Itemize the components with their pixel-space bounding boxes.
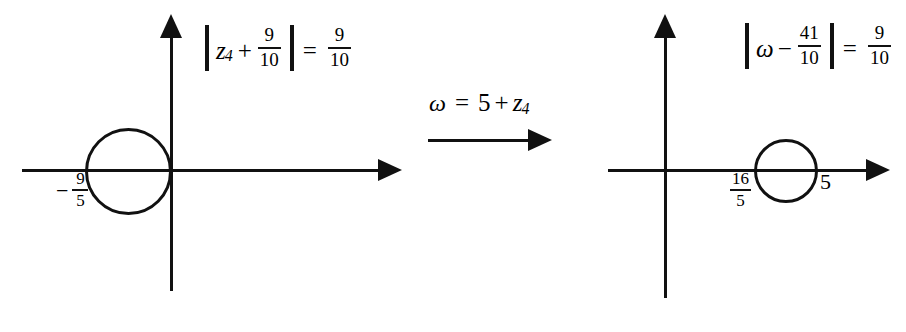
right-radius-denominator: 10 (868, 48, 891, 69)
right-axis-label-sixteen-fifths: 16 5 (728, 172, 753, 213)
left-equation-operator: + (234, 38, 256, 63)
transform-constant: 5 (478, 90, 491, 115)
right-axis-label-five: 5 (820, 171, 831, 193)
left-equation-equals: = (294, 38, 326, 63)
transform-term-subscript: 4 (521, 101, 529, 117)
abs-bar-right-icon (830, 23, 834, 69)
figure-canvas: − 9 5 z4 + 9 10 = 9 10 (0, 0, 906, 332)
abs-bar-left-icon (745, 23, 749, 69)
abs-bar-right-icon (290, 25, 294, 71)
left-circle (85, 128, 172, 215)
transform-arrow-head-icon (528, 129, 552, 151)
right-y-axis (664, 36, 667, 298)
right-y-axis-arrow-icon (654, 14, 676, 38)
right-equation-equals: = (834, 36, 866, 61)
transform-label: ω = 5 + z4 (429, 90, 530, 115)
transform-variable: ω (429, 91, 446, 115)
left-operand-numerator: 9 (263, 25, 277, 46)
left-radius-denominator: 10 (328, 50, 351, 71)
fraction-denominator: 5 (74, 192, 87, 210)
left-radius-numerator: 9 (333, 25, 347, 46)
right-radius-numerator: 9 (873, 23, 887, 44)
minus-sign: − (56, 180, 70, 202)
right-equation-operator: − (774, 36, 796, 61)
fraction-denominator: 5 (734, 192, 747, 210)
left-operand-denominator: 10 (258, 50, 281, 71)
right-x-axis-arrow-icon (866, 159, 890, 181)
abs-bar-left-icon (205, 25, 209, 71)
fraction-numerator: 16 (730, 170, 751, 188)
transform-arrow-shaft (428, 139, 530, 142)
left-equation: z4 + 9 10 = 9 10 (205, 27, 353, 73)
right-operand-denominator: 10 (798, 48, 821, 69)
right-equation: ω − 41 10 = 9 10 (745, 25, 893, 71)
fraction-numerator: 9 (74, 170, 87, 188)
right-circle (754, 139, 818, 203)
transform-operator: + (491, 90, 513, 115)
left-axis-label-neg-nine-fifths: − 9 5 (56, 172, 90, 213)
right-equation-variable: ω (756, 36, 774, 61)
right-operand-numerator: 41 (798, 23, 821, 44)
left-equation-subscript: 4 (225, 48, 233, 64)
transform-equals: = (446, 90, 478, 115)
left-y-axis-arrow-icon (160, 14, 182, 38)
left-x-axis-arrow-icon (378, 159, 402, 181)
